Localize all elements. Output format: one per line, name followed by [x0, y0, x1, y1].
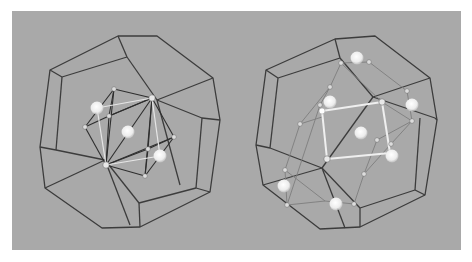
cage-edge	[266, 70, 278, 78]
cage-edge	[335, 39, 340, 58]
bond	[114, 89, 152, 98]
small-atom	[410, 119, 415, 124]
small-atom	[318, 103, 323, 108]
cage-edge	[373, 78, 430, 97]
left-polyhedron	[40, 36, 220, 228]
small-atom	[143, 174, 148, 179]
small-atom	[112, 87, 117, 92]
cage-edge	[56, 150, 105, 160]
cage-edge	[45, 160, 105, 188]
small-atom	[375, 138, 380, 143]
cage-edge	[139, 203, 140, 227]
cage-edge	[50, 70, 62, 77]
large-atom	[355, 127, 368, 140]
bond	[106, 156, 160, 165]
bond	[152, 98, 174, 137]
bond	[285, 170, 325, 201]
large-atom	[278, 180, 291, 193]
small-atom	[83, 125, 88, 130]
bond	[377, 121, 412, 140]
bond	[364, 140, 377, 174]
cage-edge	[157, 78, 213, 100]
cage-edge	[202, 118, 220, 120]
large-atom	[406, 99, 419, 112]
cage-edge	[157, 100, 202, 118]
small-atom	[285, 203, 290, 208]
cage-edge	[62, 57, 127, 77]
small-atom	[172, 135, 177, 140]
small-atom	[362, 172, 367, 177]
cage-edge	[263, 168, 322, 185]
cage-edge	[56, 77, 62, 150]
hub-atom	[149, 95, 155, 101]
small-atom	[298, 122, 303, 127]
bond	[341, 63, 382, 102]
bond	[322, 111, 327, 159]
large-atom	[386, 150, 399, 163]
large-atom	[122, 126, 135, 139]
cage-edge	[139, 188, 196, 203]
cage-edge	[196, 188, 210, 192]
cage-edge	[415, 118, 420, 190]
cage-edge	[105, 160, 130, 225]
bond	[369, 62, 407, 91]
cage-edge	[360, 190, 415, 208]
small-atom	[107, 114, 112, 119]
cage-edge	[270, 78, 278, 148]
small-atom	[328, 85, 333, 90]
bond	[391, 121, 412, 144]
large-atom	[351, 52, 364, 65]
large-atom	[154, 150, 167, 163]
small-atom	[405, 89, 410, 94]
bond	[287, 201, 325, 205]
small-atom	[283, 168, 288, 173]
hub-atom	[324, 156, 330, 162]
figure-canvas	[0, 0, 472, 262]
cage-edge	[256, 145, 270, 148]
cage-edge	[196, 118, 202, 188]
hub-atom	[103, 162, 109, 168]
cage-edge	[40, 147, 56, 150]
small-atom	[146, 147, 151, 152]
bond	[285, 124, 300, 170]
small-atom	[352, 202, 357, 207]
cage-edge	[415, 190, 425, 195]
cage-edge	[270, 148, 322, 168]
bond	[106, 165, 145, 176]
bond	[97, 98, 152, 108]
small-atom	[339, 61, 344, 66]
cage-edge	[118, 36, 127, 57]
large-atom	[324, 96, 337, 109]
hub-atom	[379, 99, 385, 105]
small-atom	[367, 60, 372, 65]
bond	[354, 174, 364, 204]
large-atom	[330, 198, 343, 211]
bond	[382, 102, 390, 153]
small-atom	[389, 142, 394, 147]
bright-atom	[319, 108, 325, 114]
right-polyhedron	[256, 36, 437, 229]
bond	[330, 63, 341, 87]
large-atom	[91, 102, 104, 115]
